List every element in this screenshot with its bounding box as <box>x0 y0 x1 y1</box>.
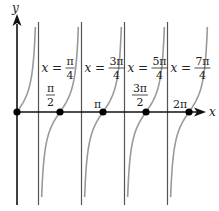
asymptote-label: x =π4 <box>42 55 75 82</box>
svg-text:5π: 5π <box>152 55 166 68</box>
x-axis-label: x <box>209 105 216 119</box>
svg-text:4: 4 <box>67 69 74 82</box>
svg-text:x =: x = <box>85 61 106 75</box>
svg-text:x =: x = <box>171 61 192 75</box>
x-tick-labels: π2π3π22π <box>46 82 187 111</box>
svg-text:2: 2 <box>47 96 54 109</box>
zero-point <box>142 108 149 115</box>
svg-text:4: 4 <box>156 69 163 82</box>
svg-text:2π: 2π <box>173 98 187 111</box>
x-tick-label: 3π2 <box>132 82 148 109</box>
tangent-graph: y x x =π4x =3π4x =5π4x =7π4 π2π3π22π <box>0 0 219 211</box>
asymptote-label: x =3π4 <box>85 55 125 82</box>
x-tick-label: π <box>94 98 101 111</box>
y-axis-label: y <box>11 1 19 15</box>
svg-text:3π: 3π <box>109 55 123 68</box>
svg-text:x =: x = <box>128 61 149 75</box>
svg-text:4: 4 <box>113 69 120 82</box>
svg-text:π: π <box>47 82 54 95</box>
svg-text:π: π <box>94 98 101 111</box>
svg-text:7π: 7π <box>195 55 209 68</box>
zero-point <box>99 108 106 115</box>
svg-text:2: 2 <box>137 96 144 109</box>
asymptote-label: x =5π4 <box>128 55 168 82</box>
asymptote-labels: x =π4x =3π4x =5π4x =7π4 <box>42 55 211 82</box>
zero-point <box>56 108 63 115</box>
svg-text:3π: 3π <box>133 82 147 95</box>
svg-text:4: 4 <box>199 69 206 82</box>
zero-point <box>13 108 20 115</box>
svg-text:x =: x = <box>42 61 63 75</box>
x-tick-label: π2 <box>46 82 55 109</box>
zero-point <box>185 108 192 115</box>
asymptote-label: x =7π4 <box>171 55 211 82</box>
svg-text:π: π <box>66 55 73 68</box>
x-tick-label: 2π <box>173 98 187 111</box>
